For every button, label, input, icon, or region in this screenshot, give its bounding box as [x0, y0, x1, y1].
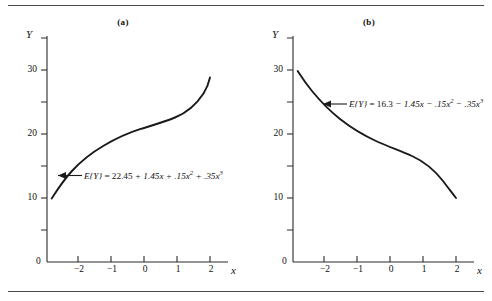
- panel-b-curve: [298, 71, 456, 198]
- panel-a-equation-term3-exp: 3: [220, 169, 223, 176]
- panel-b-origin-label: 0: [282, 256, 287, 266]
- panel-a-equation-term1: + 1.45x: [133, 171, 164, 181]
- panel-a-equation-eq: =: [102, 171, 112, 181]
- panel-b-yticklabel-20: 20: [263, 128, 283, 138]
- panel-a-equation-term0: 22.45: [112, 171, 133, 181]
- panel-b-xticklabel-1: 1: [415, 264, 433, 274]
- panel-b-equation-term3: − .35x: [454, 99, 480, 109]
- panel-a-yticklabel-30: 30: [17, 64, 37, 74]
- panel-b-yticklabel-10: 10: [263, 192, 283, 202]
- panel-b-xticklabel-neg2: −2: [316, 264, 334, 274]
- panel-a-xticklabel-neg1: −1: [103, 264, 121, 274]
- panel-b-equation-term2: − .15x: [424, 99, 450, 109]
- panel-a-annotation-arrow-head: [58, 172, 66, 179]
- panel-a-origin-label: 0: [36, 256, 41, 266]
- panel-a-caption: (a): [0, 17, 246, 27]
- panel-b-y-axis-label: Y: [272, 28, 278, 40]
- panel-b-caption: (b): [246, 17, 492, 27]
- panel-a-equation-term3: + .35x: [193, 171, 219, 181]
- panel-a: (a): [0, 0, 246, 291]
- panel-b-x-axis-label: x: [477, 264, 482, 276]
- panel-a-yticklabel-10: 10: [17, 192, 37, 202]
- panel-b-equation-eq: =: [367, 99, 377, 109]
- panel-b-xticklabel-neg1: −1: [349, 264, 367, 274]
- panel-b-equation: E{Y} = 16.3 − 1.45x − .15x2 − .35x3: [349, 97, 483, 109]
- panel-b-equation-term0: 16.3: [377, 99, 393, 109]
- panel-a-plot: Y x 30 20 10 0 −2 −1 0 1 2 E{Y} = 22.45 …: [0, 30, 246, 288]
- panel-b-equation-lhs: E{Y}: [349, 99, 367, 109]
- panel-b-equation-term1: − 1.45x: [393, 99, 424, 109]
- panel-a-y-axis-label: Y: [26, 28, 32, 40]
- bottom-rule: [8, 291, 484, 292]
- panel-b-xticklabel-0: 0: [382, 264, 400, 274]
- panel-b-yticklabel-30: 30: [263, 64, 283, 74]
- panel-a-equation-term2: + .15x: [163, 171, 189, 181]
- panel-a-xticklabel-0: 0: [136, 264, 154, 274]
- panel-b-equation-term3-exp: 3: [480, 97, 483, 104]
- panel-b-plot: Y x 30 20 10 0 −2 −1 0 1 2 E{Y} = 16.3 −…: [246, 30, 492, 288]
- panel-a-xticklabel-2: 2: [202, 264, 220, 274]
- panel-b: (b): [246, 0, 492, 291]
- panel-a-equation-lhs: E{Y}: [84, 171, 102, 181]
- panel-a-equation: E{Y} = 22.45 + 1.45x + .15x2 + .35x3: [84, 169, 223, 181]
- figure-container: (a): [0, 0, 492, 301]
- panel-a-xticklabel-1: 1: [169, 264, 187, 274]
- panel-a-xticklabel-neg2: −2: [70, 264, 88, 274]
- panel-a-yticklabel-20: 20: [17, 128, 37, 138]
- panel-a-x-axis-label: x: [231, 264, 236, 276]
- panel-b-xticklabel-2: 2: [448, 264, 466, 274]
